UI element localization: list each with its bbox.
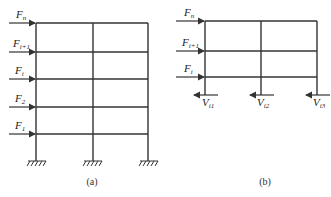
diagram-canvas: Fn Fi+1 Fi F2 F1 (a) Fn Fi+1 Fi Vi1 Vi2 … (0, 0, 331, 197)
fixed-supports-a (27, 161, 158, 166)
force-label-b-n: Fn (183, 6, 195, 20)
shear-label-i1: Vi1 (202, 96, 214, 110)
force-label-a-n: Fn (15, 8, 27, 22)
shear-label-i3: Vi3 (313, 96, 326, 110)
force-label-a-2: F2 (14, 92, 26, 106)
fixed-support-icon (83, 161, 102, 166)
frame-a (36, 23, 148, 161)
fixed-support-icon (27, 161, 46, 166)
caption-a: (a) (86, 176, 97, 188)
force-label-b-i1: Fi+1 (181, 36, 199, 50)
force-label-a-1: F1 (14, 119, 25, 133)
caption-b: (b) (259, 176, 271, 188)
frame-b (205, 21, 317, 95)
force-label-a-i1: Fi+1 (12, 37, 30, 51)
shear-label-i2: Vi2 (257, 96, 270, 110)
force-label-b-i: Fi (183, 62, 193, 76)
force-label-a-i: Fi (14, 64, 24, 78)
fixed-support-icon (139, 161, 158, 166)
